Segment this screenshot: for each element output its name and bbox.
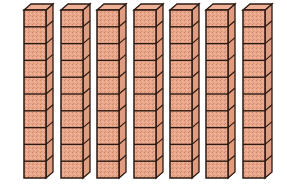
ten-rod	[243, 4, 272, 178]
base-ten-rods-figure	[0, 0, 287, 186]
ten-rod	[61, 4, 90, 178]
ten-rod	[206, 4, 235, 178]
ten-rod	[97, 4, 126, 178]
ten-rod	[24, 4, 53, 178]
ten-rod	[134, 4, 163, 178]
ten-rods-illustration	[0, 0, 287, 186]
ten-rod	[170, 4, 199, 178]
